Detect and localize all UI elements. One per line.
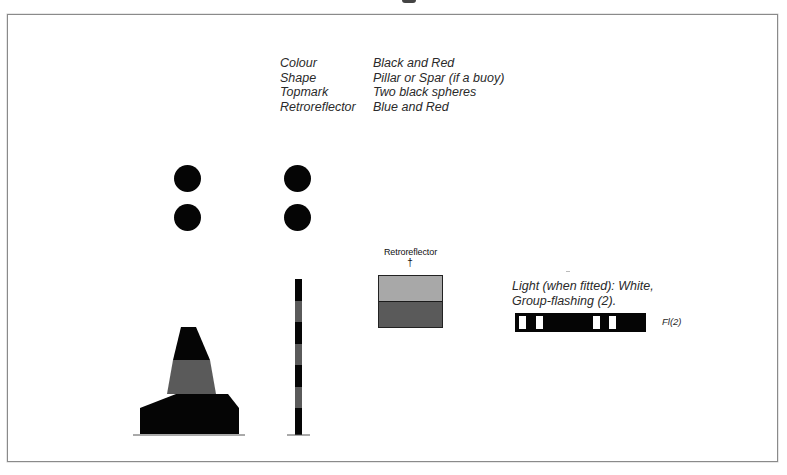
buoy-shapes-illustration: [0, 0, 787, 475]
flash-2-icon: [536, 316, 543, 329]
light-character-code: Fl(2): [662, 316, 682, 327]
flash-1-icon: [519, 316, 526, 329]
retroreflector-label: Retroreflector: [368, 247, 453, 257]
retroreflector-swatch: [378, 275, 443, 328]
light-description: Light (when fitted): White, Group-flashi…: [512, 279, 654, 308]
pillar-buoy-icon: [133, 327, 245, 435]
retroreflector-blue-band: [379, 276, 442, 302]
arrow-up-icon: †: [405, 258, 415, 268]
retroreflector-red-band: [379, 302, 442, 328]
light-phase-diagram: [515, 313, 646, 332]
light-description-line-2: Group-flashing (2).: [512, 294, 654, 309]
flash-3-icon: [593, 316, 600, 329]
light-description-line-1: Light (when fitted): White,: [512, 279, 654, 294]
flash-4-icon: [609, 316, 616, 329]
scan-artifact: [566, 271, 570, 272]
spar-buoy-icon: [287, 279, 310, 435]
